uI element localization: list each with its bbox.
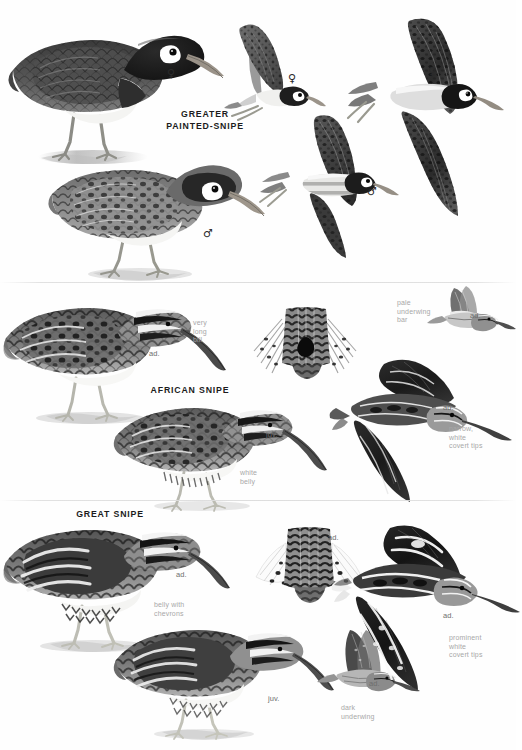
species-name-african-snipe: AFRICAN SNIPE: [139, 384, 240, 396]
african-snipe-adult-age-label: ad.: [149, 349, 160, 358]
african-snipe-standing-juvenile: [112, 398, 337, 516]
great-snipe-flying-adult-upperside: [332, 520, 522, 710]
african-snipe-flying-underside-age-label: ad.: [470, 311, 481, 320]
section-divider-1: [0, 282, 516, 283]
greater-painted-snipe-standing-female: [8, 18, 218, 168]
note-white-belly: white belly: [240, 469, 257, 486]
african-snipe-juvenile-age-label: juv.: [266, 430, 278, 439]
greater-painted-snipe-female-symbol-3: ♀: [428, 66, 436, 77]
note-belly-with-chevrons: belly with chevrons: [154, 601, 184, 618]
greater-painted-snipe-male-symbol-1: ♂: [203, 228, 213, 239]
note-narrow-white-covert-tips: narrow, white covert tips: [449, 425, 483, 451]
greater-painted-snipe-female-symbol-1: ♀: [167, 68, 175, 79]
greater-painted-snipe-standing-male: [48, 158, 263, 283]
great-snipe-standing-juvenile: [112, 620, 347, 745]
african-snipe-flying-adult-upperside: [330, 352, 516, 504]
great-snipe-flying-upperside-age-label: ad.: [443, 611, 454, 620]
note-very-long-bill: very long bill: [193, 319, 207, 345]
african-snipe-flying-upperside-age-label: ad.: [443, 403, 454, 412]
great-snipe-adult-age-label: ad.: [176, 570, 187, 579]
species-name-great-snipe: GREAT SNIPE: [59, 508, 160, 520]
note-pale-underwing-bar: pale underwing bar: [397, 299, 431, 325]
greater-painted-snipe-flying-female-large: [348, 16, 513, 231]
species-name-greater-painted-snipe: GREATER PAINTED-SNIPE: [154, 108, 255, 132]
section-divider-2: [0, 500, 516, 501]
great-snipe-juvenile-age-label: juv.: [268, 694, 280, 703]
note-prominent-white-covert-tips: prominent white covert tips: [449, 634, 483, 660]
greater-painted-snipe-female-symbol-2: ♀: [288, 73, 296, 84]
